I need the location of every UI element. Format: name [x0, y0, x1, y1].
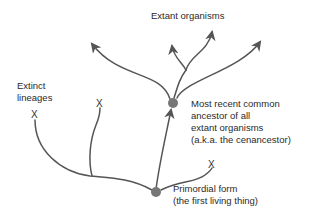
cenancestor-line3: extant organisms — [191, 122, 291, 134]
cenancestor-line1: Most recent common — [191, 98, 291, 110]
extant-branch-4 — [177, 42, 260, 98]
trunk-branch — [156, 110, 171, 189]
extinction-marker-1: X — [31, 109, 38, 120]
extinct-lineages-label: Extinct lineages — [17, 80, 52, 104]
primordial-line2: (the first living thing) — [173, 195, 258, 207]
primordial-form-label: Primordial form (the first living thing) — [173, 183, 258, 207]
primordial-line1: Primordial form — [173, 183, 258, 195]
extinction-marker-2: X — [96, 98, 103, 109]
cenancestor-node — [168, 98, 178, 108]
cenancestor-line2: ancestor of all — [191, 110, 291, 122]
cenancestor-label: Most recent common ancestor of all extan… — [191, 98, 291, 146]
primordial-node — [151, 187, 161, 197]
extinct-lineages-line1: Extinct — [17, 80, 52, 92]
extinct-branch-middle — [90, 108, 100, 176]
extant-branch-2 — [172, 46, 186, 70]
extinction-marker-3: X — [208, 159, 215, 170]
extant-organisms-label: Extant organisms — [151, 10, 224, 22]
extant-branch-3 — [186, 32, 212, 70]
extant-branch-1 — [92, 44, 170, 99]
cenancestor-line4: (a.k.a. the cenancestor) — [191, 134, 291, 146]
extant-organisms-text: Extant organisms — [151, 10, 224, 21]
extinct-lineages-line2: lineages — [17, 92, 52, 104]
